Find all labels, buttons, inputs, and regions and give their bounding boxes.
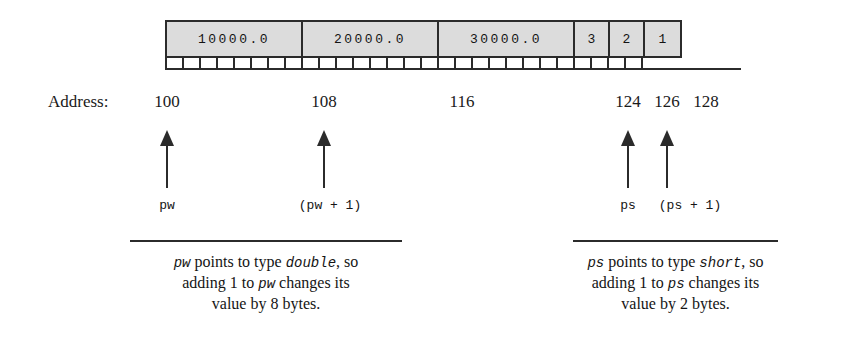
byte-tick (250, 58, 252, 69)
caption-line: adding 1 to ps changes its (559, 273, 792, 294)
byte-tick (233, 58, 235, 69)
pointer-arrow (660, 130, 674, 188)
arrow-head-icon (317, 130, 331, 146)
memory-cell: 20000.0 (303, 22, 439, 56)
memory-cell: 10000.0 (167, 22, 303, 56)
byte-tick (335, 58, 337, 69)
byte-tick (556, 58, 558, 69)
byte-tick (267, 58, 269, 69)
code-term: ps (587, 255, 604, 271)
arrow-head-icon (660, 130, 674, 146)
pointer-label: ps (620, 198, 636, 213)
memory-cell: 1 (645, 22, 680, 56)
byte-tick (624, 58, 626, 69)
caption-line: pw points to type double, so (116, 252, 416, 273)
code-term: pw (174, 255, 191, 271)
address-value: 100 (154, 92, 180, 112)
byte-tick (454, 58, 456, 69)
code-term: short (699, 255, 741, 271)
pointer-label: (ps + 1) (659, 198, 721, 213)
caption-line: value by 8 bytes. (116, 294, 416, 314)
arrow-head-icon (621, 130, 635, 146)
arrow-shaft (666, 141, 668, 188)
caption-text: adding 1 to (182, 274, 258, 291)
address-value: 128 (693, 92, 719, 112)
pointer-arithmetic-diagram: 10000.020000.030000.0321 Address: 100108… (0, 0, 847, 349)
pointer-arrow (621, 130, 635, 188)
byte-tick (216, 58, 218, 69)
arrow-shaft (323, 141, 325, 188)
memory-bar: 10000.020000.030000.0321 (165, 20, 682, 58)
caption-line: ps points to type short, so (559, 252, 792, 273)
caption-text: adding 1 to (592, 274, 668, 291)
byte-tick (471, 58, 473, 69)
caption-text: changes its (685, 274, 760, 291)
pointer-label: (pw + 1) (299, 198, 361, 213)
byte-tick (420, 58, 422, 69)
arrow-shaft (166, 141, 168, 188)
caption-text: value by 2 bytes. (621, 295, 729, 312)
byte-tick (403, 58, 405, 69)
address-value: 124 (615, 92, 641, 112)
memory-cell: 2 (610, 22, 645, 56)
caption-rule (573, 240, 778, 242)
left-caption: pw points to type double, soadding 1 to … (116, 252, 416, 314)
arrow-head-icon (160, 130, 174, 146)
caption-text: value by 8 bytes. (212, 295, 320, 312)
caption-text: points to type (191, 253, 286, 270)
byte-tick (284, 58, 286, 69)
byte-tick (318, 58, 320, 69)
byte-tick (301, 58, 303, 69)
byte-tick (539, 58, 541, 69)
byte-tick (369, 58, 371, 69)
caption-text: , so (741, 253, 763, 270)
pointer-label: pw (159, 198, 175, 213)
byte-tick (386, 58, 388, 69)
byte-tick (505, 58, 507, 69)
code-term: pw (258, 276, 275, 292)
byte-tick (352, 58, 354, 69)
byte-tick (182, 58, 184, 69)
byte-tick (199, 58, 201, 69)
memory-cell: 30000.0 (439, 22, 575, 56)
code-term: double (286, 255, 336, 271)
byte-tick (165, 58, 167, 69)
address-value: 126 (654, 92, 680, 112)
code-term: ps (668, 276, 685, 292)
address-value: 116 (450, 92, 475, 112)
address-value: 108 (311, 92, 337, 112)
byte-tick (573, 58, 575, 69)
byte-tick-marks (165, 58, 741, 70)
caption-text: changes its (275, 274, 350, 291)
pointer-arrow (160, 130, 174, 188)
arrow-shaft (627, 141, 629, 188)
byte-tick (488, 58, 490, 69)
address-row-label: Address: (48, 92, 108, 112)
byte-tick (590, 58, 592, 69)
caption-rule (130, 240, 402, 242)
right-caption: ps points to type short, soadding 1 to p… (559, 252, 792, 314)
byte-tick (607, 58, 609, 69)
caption-line: adding 1 to pw changes its (116, 273, 416, 294)
caption-text: , so (336, 253, 358, 270)
byte-tick (641, 58, 643, 69)
memory-cell: 3 (575, 22, 610, 56)
caption-text: points to type (604, 253, 699, 270)
pointer-arrow (317, 130, 331, 188)
caption-line: value by 2 bytes. (559, 294, 792, 314)
byte-tick (437, 58, 439, 69)
byte-tick (522, 58, 524, 69)
